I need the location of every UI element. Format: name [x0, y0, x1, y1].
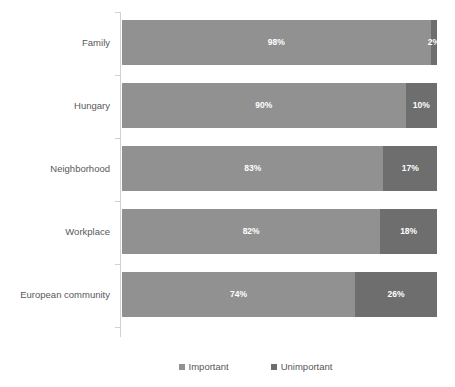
bar-value-label: 2%	[428, 38, 440, 47]
bar-track: 82%18%	[122, 209, 437, 254]
axis-tick	[115, 75, 120, 76]
legend-item[interactable]: Important	[179, 362, 229, 372]
bar-segment-important[interactable]: 90%	[122, 83, 406, 128]
category-label: Workplace	[0, 227, 110, 237]
bar-value-label: 74%	[230, 290, 247, 299]
bar-value-label: 82%	[243, 227, 260, 236]
axis-tick	[115, 138, 120, 139]
bar-segment-unimportant[interactable]: 26%	[355, 272, 437, 317]
bar-segment-unimportant[interactable]: 10%	[406, 83, 438, 128]
legend-swatch-icon	[179, 364, 185, 370]
bar-segment-unimportant[interactable]: 17%	[383, 146, 437, 191]
legend-item[interactable]: Unimportant	[271, 362, 333, 372]
bar-segment-important[interactable]: 83%	[122, 146, 383, 191]
axis-tick	[115, 327, 120, 328]
category-label: Family	[0, 38, 110, 48]
plot-area: Family98%2%Hungary90%10%Neighborhood83%1…	[0, 0, 455, 345]
bar-segment-important[interactable]: 74%	[122, 272, 355, 317]
legend-label: Unimportant	[281, 362, 333, 372]
legend-swatch-icon	[271, 364, 277, 370]
bar-value-label: 18%	[400, 227, 417, 236]
bar-segment-important[interactable]: 98%	[122, 20, 431, 65]
bar-row: Family98%2%	[0, 20, 455, 65]
bar-track: 90%10%	[122, 83, 437, 128]
bar-track: 98%2%	[122, 20, 437, 65]
category-label: Hungary	[0, 101, 110, 111]
chart-legend: ImportantUnimportant	[0, 358, 455, 376]
bar-row: Neighborhood83%17%	[0, 146, 455, 191]
bar-segment-unimportant[interactable]: 2%	[431, 20, 437, 65]
axis-tick	[115, 264, 120, 265]
bar-row: Hungary90%10%	[0, 83, 455, 128]
category-label: European community	[0, 290, 110, 300]
bar-track: 83%17%	[122, 146, 437, 191]
bar-value-label: 90%	[255, 101, 272, 110]
bar-row: European community74%26%	[0, 272, 455, 317]
bar-value-label: 17%	[402, 164, 419, 173]
bar-value-label: 10%	[413, 101, 430, 110]
stacked-bar-chart: Family98%2%Hungary90%10%Neighborhood83%1…	[0, 0, 455, 387]
legend-label: Important	[189, 362, 229, 372]
bar-value-label: 26%	[388, 290, 405, 299]
axis-tick	[115, 12, 120, 13]
bar-track: 74%26%	[122, 272, 437, 317]
bar-value-label: 98%	[268, 38, 285, 47]
bar-value-label: 83%	[244, 164, 261, 173]
bar-row: Workplace82%18%	[0, 209, 455, 254]
axis-tick	[115, 201, 120, 202]
bar-segment-important[interactable]: 82%	[122, 209, 380, 254]
bar-segment-unimportant[interactable]: 18%	[380, 209, 437, 254]
category-label: Neighborhood	[0, 164, 110, 174]
